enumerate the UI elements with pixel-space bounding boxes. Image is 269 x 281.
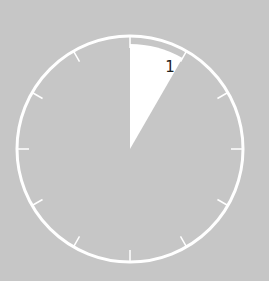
timer-dial[interactable]: 1 — [0, 0, 269, 281]
elapsed-minutes-label: 1 — [165, 58, 175, 76]
tick-mark — [32, 200, 42, 206]
tick-mark — [217, 200, 227, 206]
tick-mark — [74, 236, 80, 246]
tick-mark — [181, 236, 187, 246]
tick-mark — [32, 93, 42, 99]
tick-mark — [217, 93, 227, 99]
tick-mark — [74, 51, 80, 61]
